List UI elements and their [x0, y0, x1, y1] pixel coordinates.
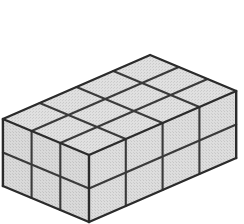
- solid-faces: [3, 55, 236, 222]
- figure-canvas: Rectangular block built from unit cubes …: [0, 0, 244, 224]
- isometric-cube-block-svg: [0, 0, 244, 224]
